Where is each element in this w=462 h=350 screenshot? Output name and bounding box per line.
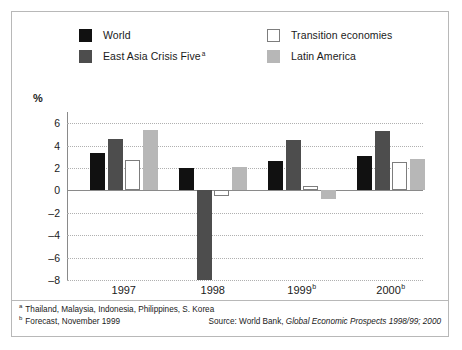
y-axis-line (67, 112, 68, 280)
footnote-marker-a: a (19, 303, 22, 309)
bar (375, 131, 390, 190)
bar (321, 190, 336, 199)
x-tick-label: 2000b (376, 284, 405, 296)
legend-item-transition-economies: Transition economies (267, 29, 392, 42)
x-tick-footnote-marker: b (312, 283, 316, 290)
bar (108, 139, 123, 191)
bar (410, 159, 425, 190)
legend-swatch-transition-economies (267, 29, 280, 42)
chart-figure: World East Asia Crisis Fivea Transition … (11, 11, 449, 337)
legend-label-world: World (103, 29, 131, 42)
zero-line (67, 190, 423, 191)
bar (268, 161, 283, 190)
x-tick-label: 1997 (112, 284, 136, 296)
x-tick-footnote-marker: b (401, 283, 405, 290)
footnote-text-a: Thailand, Malaysia, Indonesia, Philippin… (25, 305, 214, 314)
legend-swatch-world (79, 29, 92, 42)
gridline (67, 213, 423, 214)
bar (357, 156, 372, 191)
y-tick-label: –6 (48, 252, 60, 264)
legend-swatch-latin-america (267, 50, 280, 63)
bar (286, 140, 301, 190)
chart-legend: World East Asia Crisis Fivea Transition … (12, 29, 448, 75)
y-tick-label: 4 (54, 140, 60, 152)
y-tick-label: 0 (54, 184, 60, 196)
x-tick-label: 1999b (287, 284, 316, 296)
bar (90, 153, 105, 190)
gridline (67, 258, 423, 259)
legend-swatch-east-asia-crisis-five (79, 50, 92, 63)
x-tick-label: 1998 (201, 284, 225, 296)
y-tick-label: –8 (48, 274, 60, 286)
y-tick-label: –2 (48, 207, 60, 219)
bar (197, 190, 212, 280)
y-axis-unit-label: % (33, 92, 43, 104)
bar (143, 130, 158, 190)
gridline (67, 235, 423, 236)
y-tick-label: –4 (48, 229, 60, 241)
legend-item-east-asia-crisis-five: East Asia Crisis Fivea (79, 50, 206, 63)
bar (303, 186, 318, 190)
footnote-a: aThailand, Malaysia, Indonesia, Philippi… (19, 305, 214, 314)
bar (179, 168, 194, 190)
legend-item-world: World (79, 29, 131, 42)
legend-label-transition-economies: Transition economies (291, 29, 392, 42)
plot-area: 6420–2–4–6–8 199719981999b2000b (67, 112, 423, 280)
gridline (67, 280, 423, 281)
y-tick-label: 2 (54, 162, 60, 174)
legend-label-east-asia-crisis-five: East Asia Crisis Fivea (103, 50, 206, 63)
legend-footnote-marker-a: a (202, 50, 206, 57)
legend-label-latin-america: Latin America (291, 50, 356, 63)
y-tick-label: 6 (54, 117, 60, 129)
footnote-text-b: Forecast, November 1999 (25, 317, 120, 326)
source-note: Source: World Bank, Global Economic Pros… (209, 317, 441, 326)
footnote-b: bForecast, November 1999 (19, 317, 120, 326)
bar (232, 167, 247, 191)
bar (125, 160, 140, 190)
bar (392, 162, 407, 190)
legend-item-latin-america: Latin America (267, 50, 356, 63)
source-prefix: Source: World Bank, (209, 317, 284, 326)
bar (214, 190, 229, 196)
footnote-marker-b: b (19, 315, 22, 321)
source-title: Global Economic Prospects 1998/99; 2000 (286, 317, 441, 326)
gridline (67, 123, 423, 124)
footnotes-panel: aThailand, Malaysia, Indonesia, Philippi… (12, 300, 448, 336)
